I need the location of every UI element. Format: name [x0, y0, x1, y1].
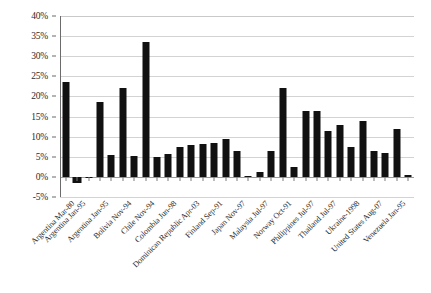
bar	[188, 145, 195, 177]
y-tick-label: 35%	[31, 31, 48, 41]
x-tick-mark	[179, 177, 180, 181]
bar	[268, 151, 275, 177]
plot-area	[60, 16, 414, 197]
x-axis-labels: Argentina Mar-80Argentina Jan-95Argentin…	[60, 197, 414, 293]
bar	[119, 88, 126, 177]
bar	[291, 167, 298, 177]
x-tick-mark	[236, 177, 237, 181]
bar-slot	[300, 16, 311, 197]
y-tick-label: 15%	[31, 112, 48, 122]
x-tick-mark	[271, 177, 272, 181]
x-tick-mark	[134, 177, 135, 181]
x-tick-mark	[202, 177, 203, 181]
bar-slot	[129, 16, 140, 197]
x-tick-mark	[385, 177, 386, 181]
bar	[371, 151, 378, 177]
bar	[359, 121, 366, 177]
x-tick-mark	[191, 177, 192, 181]
bar	[336, 125, 343, 176]
bar	[108, 155, 115, 177]
y-tick-mark	[52, 96, 56, 97]
bar	[325, 131, 332, 177]
bar	[96, 102, 103, 176]
y-tick-mark	[52, 76, 56, 77]
x-tick-mark	[259, 177, 260, 181]
y-tick-label: 25%	[31, 71, 48, 81]
bar-slot	[186, 16, 197, 197]
bar-slot	[140, 16, 151, 197]
x-tick-mark	[408, 177, 409, 181]
x-tick-mark	[339, 177, 340, 181]
x-tick-mark	[88, 177, 89, 181]
y-tick-label: 20%	[31, 91, 48, 101]
x-tick-mark	[328, 177, 329, 181]
x-tick-mark	[305, 177, 306, 181]
bar	[131, 156, 138, 177]
y-tick-label: 40%	[31, 11, 48, 21]
x-tick-mark	[157, 177, 158, 181]
x-tick-mark	[248, 177, 249, 181]
x-tick-label: Venezuela Jan-95	[361, 199, 407, 245]
x-tick-mark	[214, 177, 215, 181]
bar-slot	[106, 16, 117, 197]
y-tick-mark	[52, 16, 56, 17]
x-tick-mark	[65, 177, 66, 181]
bar-slot	[94, 16, 105, 197]
y-tick-mark	[52, 56, 56, 57]
bar-slot	[197, 16, 208, 197]
bar	[176, 147, 183, 177]
x-tick-mark	[374, 177, 375, 181]
bar-slot	[208, 16, 219, 197]
x-tick-mark	[168, 177, 169, 181]
bar	[62, 82, 69, 177]
bar	[222, 139, 229, 177]
bar-slot	[231, 16, 242, 197]
x-tick-mark	[111, 177, 112, 181]
bar-slot	[391, 16, 402, 197]
y-tick-label: 30%	[31, 51, 48, 61]
bar-slot	[266, 16, 277, 197]
bar-slot	[174, 16, 185, 197]
x-tick-mark	[122, 177, 123, 181]
y-tick-mark	[52, 36, 56, 37]
y-tick-label: -5%	[33, 192, 48, 202]
x-tick-mark	[77, 177, 78, 181]
bar-slot	[220, 16, 231, 197]
x-tick-mark	[145, 177, 146, 181]
y-tick-mark	[52, 156, 56, 157]
bar-slot	[288, 16, 299, 197]
bar	[382, 153, 389, 177]
bar-slot	[83, 16, 94, 197]
x-tick-mark	[99, 177, 100, 181]
bars-layer	[60, 16, 414, 197]
y-tick-label: 10%	[31, 132, 48, 142]
y-tick-mark	[52, 116, 56, 117]
bar-slot	[357, 16, 368, 197]
bar	[393, 129, 400, 177]
bar	[199, 144, 206, 177]
bar	[302, 111, 309, 177]
y-axis: 40%35%30%25%20%15%10%5%0%-5%	[0, 16, 56, 197]
x-tick-mark	[282, 177, 283, 181]
y-tick-label: 5%	[36, 152, 48, 162]
y-tick-mark	[52, 197, 56, 198]
bar-slot	[368, 16, 379, 197]
bar	[279, 88, 286, 176]
y-tick-mark	[52, 176, 56, 177]
bar-slot	[117, 16, 128, 197]
x-tick-mark	[294, 177, 295, 181]
bar-slot	[380, 16, 391, 197]
bar	[165, 154, 172, 177]
bar-slot	[151, 16, 162, 197]
bar	[142, 42, 149, 177]
bar-chart: 40%35%30%25%20%15%10%5%0%-5% Argentina M…	[0, 0, 431, 293]
bar-slot	[243, 16, 254, 197]
bar-slot	[403, 16, 414, 197]
x-tick-mark	[362, 177, 363, 181]
bar	[313, 111, 320, 177]
x-tick-mark	[316, 177, 317, 181]
y-tick-label: 0%	[36, 172, 48, 182]
y-tick-mark	[52, 136, 56, 137]
x-tick-mark	[351, 177, 352, 181]
bar-slot	[311, 16, 322, 197]
